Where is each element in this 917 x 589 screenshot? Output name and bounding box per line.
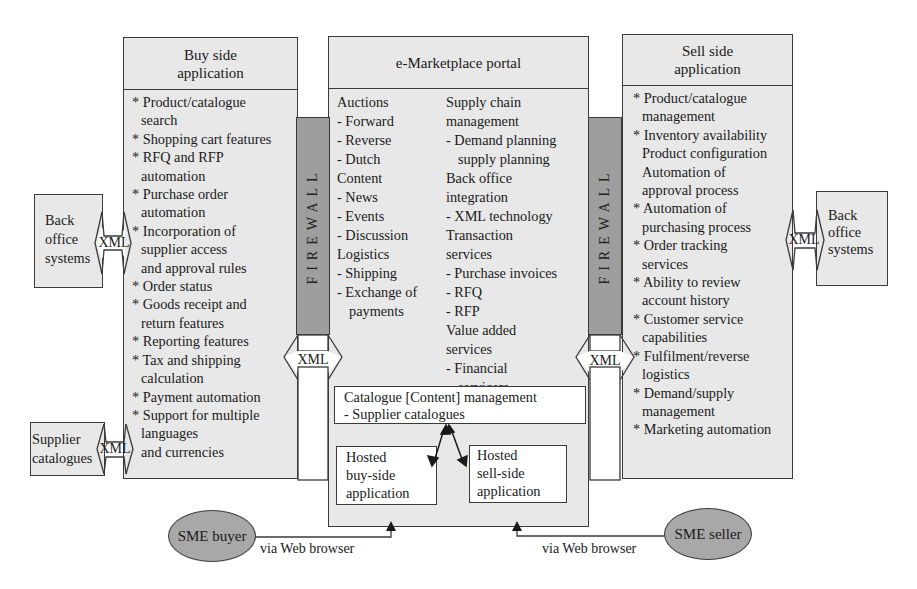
xml-label-back-office-right: XML: [788, 232, 820, 248]
xml-label-firewall-left: XML: [295, 352, 331, 368]
catalogue-to-hosted-arrows: [428, 425, 467, 466]
sme-seller-node: SME seller: [664, 508, 752, 560]
sme-seller-caption: via Web browser: [542, 541, 636, 557]
sme-buyer-label: SME buyer: [178, 528, 247, 545]
sme-seller-label: SME seller: [674, 526, 741, 543]
sme-buyer-node: SME buyer: [168, 510, 256, 562]
xml-label-back-office-left: XML: [98, 235, 130, 251]
sme-seller-connector: [512, 521, 665, 536]
xml-label-firewall-right: XML: [587, 353, 623, 369]
sme-buyer-connector: [255, 521, 396, 537]
xml-label-supplier: XML: [99, 441, 131, 457]
sme-buyer-caption: via Web browser: [260, 541, 354, 557]
connector-layer: [0, 0, 917, 589]
